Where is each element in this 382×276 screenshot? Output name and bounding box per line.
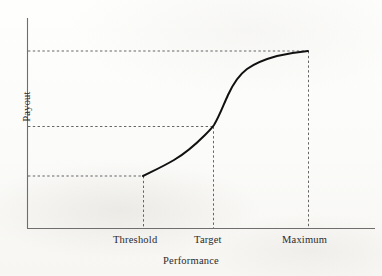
x-tick-label-threshold: Threshold [113, 234, 157, 245]
payout-curve-line [143, 51, 308, 176]
x-tick-label-maximum: Maximum [282, 234, 327, 245]
payout-performance-chart: Payout Threshold Target Maximum Performa… [0, 0, 382, 276]
x-tick-label-target: Target [194, 234, 222, 245]
y-axis-title: Payout [21, 83, 32, 131]
x-axis-title: Performance [0, 255, 382, 266]
